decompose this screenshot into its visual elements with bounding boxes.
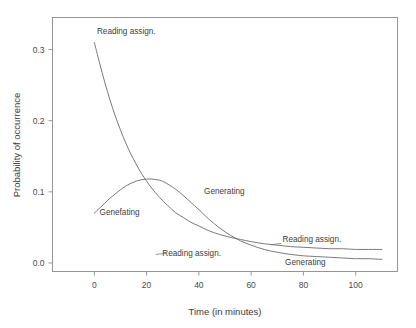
curve-label: Generating xyxy=(204,187,245,196)
x-tick-label: 80 xyxy=(299,280,309,290)
chart-page: 0.00.10.20.3 020406080100 Time (in minut… xyxy=(0,0,416,328)
y-tick-label: 0.2 xyxy=(33,116,45,126)
x-tick-label: 100 xyxy=(349,280,363,290)
curve-label: Generating xyxy=(285,258,326,267)
y-axis-title: Probability of occurrence xyxy=(11,93,22,198)
x-axis-title: Time (in minutes) xyxy=(188,306,261,317)
curve-label: Reading assign. xyxy=(97,27,156,36)
y-tick-label: 0.0 xyxy=(33,258,45,268)
y-tick-label: 0.1 xyxy=(33,187,45,197)
y-tick-label: 0.3 xyxy=(33,45,45,55)
x-tick-label: 0 xyxy=(92,280,97,290)
probability-line-chart: 0.00.10.20.3 020406080100 Time (in minut… xyxy=(0,0,416,328)
curve-label: Reading assign. xyxy=(283,235,342,244)
x-tick-label: 60 xyxy=(246,280,256,290)
curve-label: Genefating xyxy=(100,208,141,217)
x-tick-label: 20 xyxy=(142,280,152,290)
curve-label: Reading assign. xyxy=(162,249,221,258)
x-tick-label: 40 xyxy=(194,280,204,290)
